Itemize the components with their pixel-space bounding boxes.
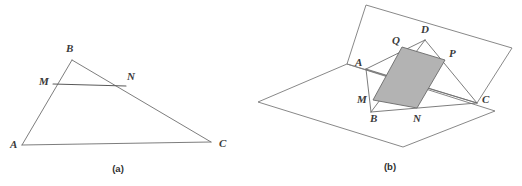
label-b-fig-a: B — [65, 42, 73, 54]
label-m-fig-a: M — [38, 75, 50, 87]
label-c-fig-a: C — [219, 137, 227, 149]
segment-ab-fig-b — [366, 69, 371, 112]
segment-bc-fig-b — [371, 103, 477, 112]
label-a-fig-b: A — [354, 56, 362, 68]
caption-figure-a: (a) — [112, 163, 124, 174]
label-n-fig-b: N — [412, 112, 422, 124]
geometry-figure-svg: A B C M N (a) A B C — [0, 0, 522, 186]
label-d-fig-b: D — [420, 23, 429, 35]
figure-board: A B C M N (a) A B C — [0, 0, 522, 186]
label-m-fig-b: M — [356, 93, 368, 105]
shaded-quadrilateral-mnpq — [373, 47, 445, 108]
caption-figure-b: (b) — [384, 161, 396, 172]
figure-a-group: A B C M N (a) — [9, 42, 227, 174]
label-p-fig-b: P — [449, 47, 456, 59]
figure-b-group: A B C D M N P Q (b) — [258, 5, 512, 172]
segment-ac — [22, 142, 211, 145]
label-q-fig-b: Q — [392, 34, 400, 46]
label-n-fig-a: N — [126, 70, 136, 82]
segment-ab — [22, 60, 72, 145]
segment-bc — [72, 60, 211, 142]
label-c-fig-b: C — [482, 93, 490, 105]
label-b-fig-b: B — [369, 112, 377, 124]
lower-plane-outline — [258, 64, 495, 147]
label-a-fig-a: A — [9, 138, 17, 150]
